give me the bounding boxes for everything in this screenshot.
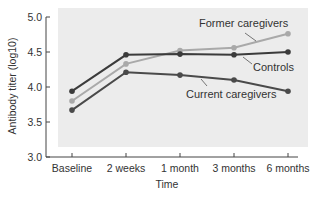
y-tick-label: 5.0 [27, 11, 42, 23]
data-point [69, 107, 75, 113]
x-tick-label: 1 month [161, 162, 199, 174]
x-tick-label: Baseline [52, 162, 92, 174]
label-current-caregivers: Current caregivers [186, 88, 277, 100]
data-point [177, 51, 183, 57]
data-point [231, 77, 237, 83]
data-point [177, 72, 183, 78]
y-tick-label: 3.5 [27, 116, 42, 128]
data-point [123, 70, 129, 76]
x-tick-label: 6 months [266, 162, 309, 174]
data-point [123, 52, 129, 58]
data-point [285, 49, 291, 55]
data-point [123, 61, 129, 67]
y-axis: 3.03.54.04.55.0 [27, 11, 50, 163]
x-axis-title: Time [156, 178, 179, 190]
x-tick-label: 2 weeks [107, 162, 146, 174]
data-point [69, 98, 75, 104]
y-tick-label: 4.0 [27, 81, 42, 93]
data-point [69, 88, 75, 94]
label-controls: Controls [253, 61, 294, 73]
data-point [231, 52, 237, 58]
label-former-caregivers: Former caregivers [199, 17, 289, 29]
x-tick-label: 3 months [212, 162, 255, 174]
line-chart: 3.03.54.04.55.0 Baseline2 weeks1 month3 … [0, 0, 320, 198]
x-axis: Baseline2 weeks1 month3 months6 months [46, 153, 310, 174]
y-axis-title: Antibody titer (log10) [6, 38, 18, 135]
y-tick-label: 3.0 [27, 151, 42, 163]
data-point [285, 31, 291, 37]
data-point [285, 88, 291, 94]
y-tick-label: 4.5 [27, 46, 42, 58]
data-point [231, 45, 237, 51]
